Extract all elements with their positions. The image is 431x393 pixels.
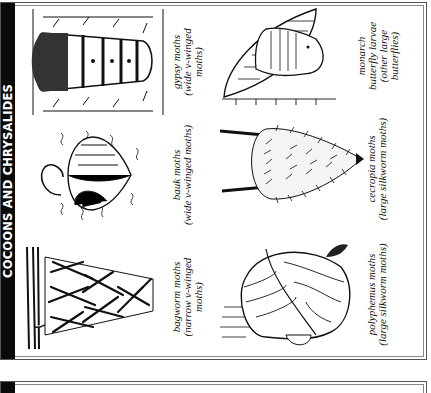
caption-line: butterflies) — [389, 3, 400, 109]
gypsy-caption: gypsy moths (wide v-winged moths) — [171, 3, 204, 121]
gypsy-figure: gypsy moths (wide v-winged moths) — [23, 3, 213, 121]
polyphemus-figure: polyphemus moths (large silkworm moths) — [216, 232, 421, 357]
caption-line: moths) — [193, 237, 204, 357]
cocoons-panel: COCOONS AND CHRYSALIDES — [0, 2, 427, 360]
bauk-figure: bauk moths (wide v-winged moths) — [23, 115, 213, 235]
next-title-bar — [1, 382, 15, 393]
next-panel — [0, 381, 427, 393]
polyphemus-cocoon-icon — [216, 232, 366, 357]
cecropia-caption: cecropia moths (large silkworm moths) — [366, 109, 388, 229]
rotated-page: COCOONS AND CHRYSALIDES — [0, 0, 431, 393]
caption-line: (large silkworm moths) — [377, 232, 388, 357]
monarch-chrysalis-icon — [216, 3, 356, 109]
gypsy-pupa-icon — [23, 3, 173, 121]
caption-line: moths) — [193, 3, 204, 121]
bagworm-caption: bagworm moths (narrow v-winged moths) — [171, 237, 204, 357]
bagworm-cocoon-icon — [23, 237, 173, 357]
cecropia-cocoon-icon — [216, 109, 366, 229]
bauk-caption: bauk moths (wide v-winged moths) — [171, 115, 193, 235]
bagworm-figure: bagworm moths (narrow v-winged moths) — [23, 237, 213, 357]
monarch-caption: monarch butterfly larvae (other large bu… — [356, 3, 400, 109]
polyphemus-caption: polyphemus moths (large silkworm moths) — [366, 232, 388, 357]
cecropia-figure: cecropia moths (large silkworm moths) — [216, 109, 421, 229]
panel-title: COCOONS AND CHRYSALIDES — [1, 3, 15, 359]
caption-line: (large silkworm moths) — [377, 109, 388, 229]
caption-line: (wide v-winged moths) — [182, 115, 193, 235]
bauk-chrysalis-icon — [23, 115, 173, 235]
monarch-figure: monarch butterfly larvae (other large bu… — [216, 3, 421, 109]
